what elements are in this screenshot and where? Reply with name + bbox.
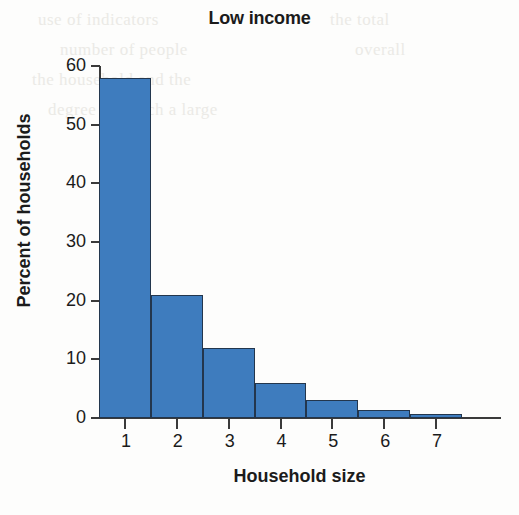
x-tick-label: 5	[313, 431, 353, 452]
bar	[99, 78, 151, 418]
x-tick-label: 7	[417, 431, 457, 452]
y-tick-label: 0	[46, 407, 86, 428]
bar	[151, 295, 203, 418]
y-tick-label: 20	[46, 290, 86, 311]
x-tick-mark	[383, 419, 385, 429]
x-tick-mark	[280, 419, 282, 429]
x-tick-label: 3	[210, 431, 250, 452]
x-tick-mark	[124, 419, 126, 429]
x-tick-label: 2	[158, 431, 198, 452]
x-tick-label: 6	[365, 431, 405, 452]
plot-area: 0102030405060 1234567	[0, 0, 519, 515]
y-tick-label: 50	[46, 114, 86, 135]
y-tick-label: 40	[46, 172, 86, 193]
y-tick-label: 10	[46, 348, 86, 369]
y-tick-label: 60	[46, 55, 86, 76]
bar	[203, 348, 255, 418]
x-tick-label: 4	[262, 431, 302, 452]
x-axis-title: Household size	[99, 466, 500, 487]
bar	[255, 383, 307, 418]
x-tick-mark	[228, 419, 230, 429]
x-tick-mark	[331, 419, 333, 429]
bar	[410, 414, 462, 418]
bar	[358, 410, 410, 418]
bar-chart: Low income Percent of households 0102030…	[0, 0, 519, 515]
x-tick-mark	[435, 419, 437, 429]
y-tick-mark	[91, 65, 100, 67]
y-tick-label: 30	[46, 231, 86, 252]
x-tick-mark	[176, 419, 178, 429]
x-tick-label: 1	[106, 431, 146, 452]
bar	[306, 400, 358, 418]
